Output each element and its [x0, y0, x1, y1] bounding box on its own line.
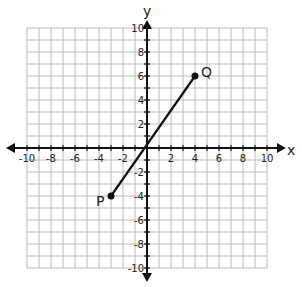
axes: [6, 20, 286, 282]
point-q-label: Q: [201, 64, 212, 80]
svg-text:6: 6: [138, 71, 144, 82]
svg-text:2: 2: [138, 119, 144, 130]
svg-text:10: 10: [261, 153, 274, 164]
svg-text:-4: -4: [134, 191, 144, 202]
point-p-label: P: [96, 193, 104, 209]
svg-text:-2: -2: [118, 153, 128, 164]
svg-text:2: 2: [168, 153, 174, 164]
svg-text:8: 8: [240, 153, 246, 164]
svg-text:-6: -6: [134, 215, 144, 226]
svg-text:-4: -4: [94, 153, 104, 164]
svg-text:6: 6: [216, 153, 222, 164]
coordinate-plane: -10-8-6-4-2246810108642-2-4-6-8-10 P Q x…: [0, 0, 302, 287]
svg-text:-2: -2: [134, 167, 144, 178]
svg-text:-10: -10: [19, 153, 35, 164]
svg-text:-6: -6: [70, 153, 80, 164]
point-p: [108, 193, 115, 200]
svg-text:-10: -10: [128, 263, 144, 274]
svg-text:4: 4: [192, 153, 198, 164]
svg-text:-8: -8: [46, 153, 56, 164]
svg-text:4: 4: [138, 95, 144, 106]
svg-text:8: 8: [138, 47, 144, 58]
svg-text:10: 10: [131, 23, 144, 34]
y-axis-label: y: [143, 3, 151, 19]
point-q: [192, 73, 199, 80]
svg-text:-8: -8: [134, 239, 144, 250]
x-axis-label: x: [287, 142, 295, 158]
